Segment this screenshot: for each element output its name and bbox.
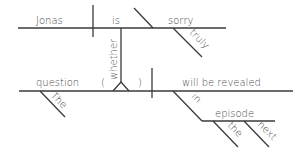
placeholder-close: ) [138, 77, 142, 88]
predicate-slash [134, 8, 153, 28]
sentence-diagram: Jonas is sorry truly whether ( ) questio… [0, 0, 308, 158]
word-object-episode: episode [215, 108, 254, 119]
word-connector-whether: whether [108, 38, 119, 80]
word-modifier-the-question: The [49, 90, 70, 111]
word-preposition-in: in [190, 91, 204, 105]
connector-pedestal [113, 82, 129, 91]
word-modifier-truly: truly [188, 27, 212, 51]
word-modifier-the-episode: the [226, 120, 245, 139]
word-verb-sub: will be revealed [182, 77, 261, 88]
placeholder-open: ( [101, 77, 105, 88]
word-subject-sub: question [36, 77, 79, 88]
word-verb-main: is [112, 15, 120, 26]
word-subject-main: Jonas [36, 15, 63, 26]
word-modifier-next: next [256, 119, 279, 142]
word-predicate-adjective: sorry [168, 15, 194, 26]
